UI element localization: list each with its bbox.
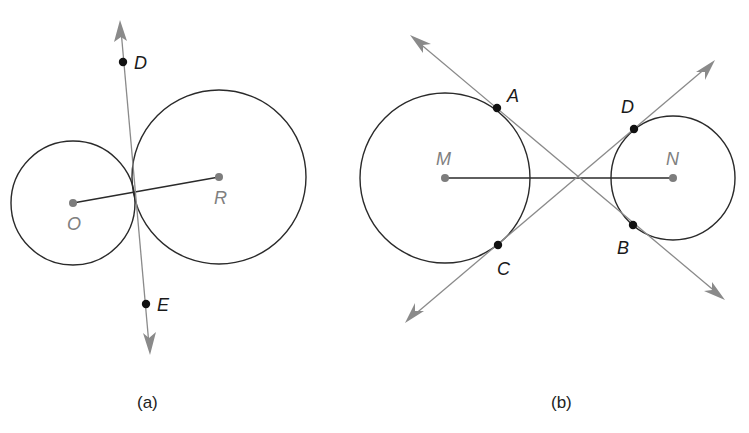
label-n: N bbox=[666, 149, 680, 169]
point-e bbox=[142, 300, 150, 308]
arrow-up-icon bbox=[114, 20, 127, 42]
diagram-canvas: O R D E (a) M N A B C D (b) bbox=[0, 0, 749, 433]
point-d-b bbox=[630, 125, 638, 133]
figure-b: M N A B C D (b) bbox=[360, 35, 735, 412]
segment-or bbox=[73, 177, 219, 203]
label-r: R bbox=[214, 188, 227, 208]
point-d-a bbox=[119, 58, 127, 66]
arrow-up-right-icon bbox=[696, 60, 715, 80]
label-e: E bbox=[157, 295, 170, 315]
label-a: A bbox=[506, 86, 519, 106]
point-a bbox=[493, 104, 501, 112]
arrow-down-icon bbox=[143, 332, 156, 355]
caption-a: (a) bbox=[137, 393, 158, 412]
label-d-b: D bbox=[621, 97, 634, 117]
point-b bbox=[629, 221, 637, 229]
caption-b: (b) bbox=[551, 393, 572, 412]
center-point-m bbox=[441, 174, 449, 182]
tangent-line-de bbox=[121, 30, 149, 345]
center-point-r bbox=[215, 173, 223, 181]
label-b: B bbox=[617, 238, 629, 258]
point-c bbox=[494, 241, 502, 249]
figure-a: O R D E (a) bbox=[11, 20, 306, 412]
tangent-line-cd bbox=[413, 67, 707, 316]
label-o: O bbox=[67, 214, 81, 234]
label-m: M bbox=[436, 149, 451, 169]
label-c: C bbox=[497, 259, 511, 279]
center-point-o bbox=[69, 199, 77, 207]
arrow-down-left-icon bbox=[405, 303, 424, 323]
center-point-n bbox=[669, 174, 677, 182]
label-d-a: D bbox=[134, 53, 147, 73]
